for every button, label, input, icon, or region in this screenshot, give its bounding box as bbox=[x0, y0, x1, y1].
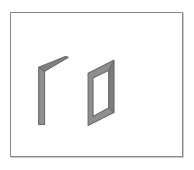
image-frame bbox=[10, 12, 183, 157]
screenshot-viewport: Two isometric gray panel shapes on a whi… bbox=[0, 0, 194, 170]
right-panel-right-stile bbox=[109, 60, 114, 112]
right-parallelogram-panel bbox=[88, 60, 114, 125]
left-panel-front-face bbox=[39, 67, 45, 124]
left-panel-top-arm bbox=[39, 56, 69, 71]
left-angled-panel bbox=[39, 56, 69, 124]
isometric-shapes-canvas bbox=[11, 13, 182, 156]
